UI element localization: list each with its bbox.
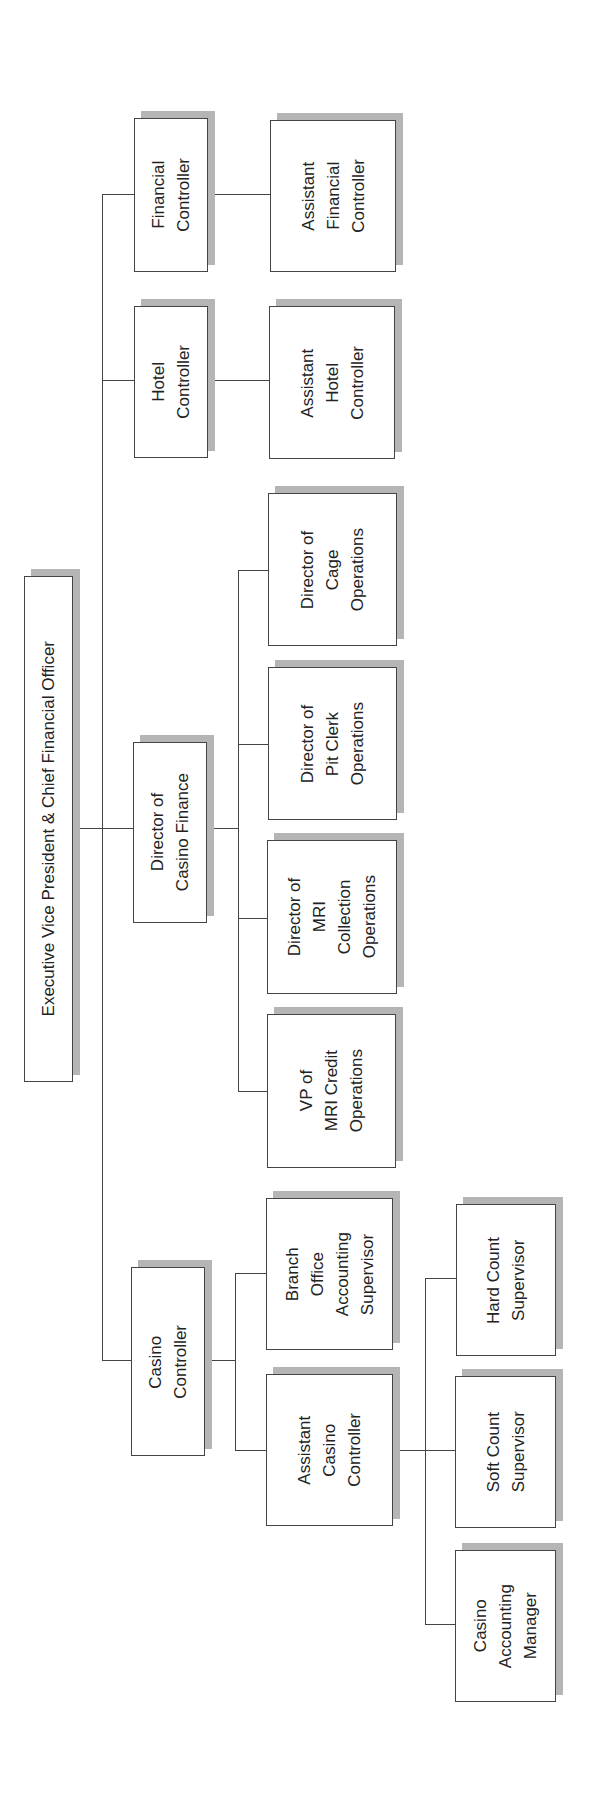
node-director-pit-clerk-operations: Director of Pit Clerk Operations [268, 667, 397, 820]
node-vp-mri-credit-operations: VP of MRI Credit Operations [267, 1014, 396, 1168]
node-director-casino-finance: Director of Casino Finance [133, 742, 207, 923]
connector-pit [238, 744, 268, 745]
connector-trunk [102, 194, 103, 1361]
connector-root [73, 828, 103, 829]
connector-cf-bus [238, 570, 239, 1092]
connector-hard [425, 1278, 456, 1279]
node-assistant-casino-controller: Assistant Casino Controller [266, 1374, 393, 1526]
connector-branch [235, 1273, 266, 1274]
node-label: Director of Cage Operations [295, 528, 370, 611]
node-label: Assistant Financial Controller [296, 159, 371, 233]
node-label: Casino Controller [143, 1325, 193, 1399]
connector-cage [238, 570, 268, 571]
connector-casino-finance [102, 828, 134, 829]
node-soft-count-supervisor: Soft Count Supervisor [455, 1376, 556, 1528]
connector-asst-casino [235, 1450, 266, 1451]
node-director-mri-collection-operations: Director of MRI Collection Operations [267, 840, 397, 994]
node-financial-controller: Financial Controller [134, 118, 208, 272]
node-label: Branch Office Accounting Supervisor [280, 1232, 380, 1316]
connector-financial [102, 194, 134, 195]
node-evp-cfo: Executive Vice President & Chief Financi… [24, 576, 73, 1082]
node-label: Casino Accounting Manager [468, 1584, 543, 1668]
node-casino-accounting-manager: Casino Accounting Manager [455, 1550, 556, 1702]
node-label: Director of Casino Finance [145, 773, 195, 891]
node-branch-office-accounting-supervisor: Branch Office Accounting Supervisor [266, 1198, 393, 1350]
node-assistant-hotel-controller: Assistant Hotel Controller [269, 306, 395, 459]
connector-soft [425, 1450, 456, 1451]
node-label: Assistant Hotel Controller [295, 346, 370, 420]
connector-cam [425, 1624, 456, 1625]
node-hard-count-supervisor: Hard Count Supervisor [456, 1204, 556, 1356]
connector-mri-collection [238, 918, 268, 919]
node-label: Executive Vice President & Chief Financi… [36, 641, 61, 1016]
node-label: Soft Count Supervisor [481, 1411, 531, 1492]
node-casino-controller: Casino Controller [131, 1267, 205, 1456]
node-label: Director of Pit Clerk Operations [295, 702, 370, 785]
connector-cc-bus [235, 1273, 236, 1450]
connector-financial-child [208, 194, 270, 195]
node-label: Financial Controller [146, 158, 196, 232]
node-label: Assistant Casino Controller [292, 1413, 367, 1487]
connector-hotel-child [208, 380, 270, 381]
connector-cc-out [205, 1360, 236, 1361]
node-label: Director of MRI Collection Operations [282, 875, 382, 958]
connector-vp-mri [238, 1091, 268, 1092]
node-label: Hotel Controller [146, 345, 196, 419]
connector-ac-out [393, 1450, 425, 1451]
node-label: VP of MRI Credit Operations [294, 1049, 369, 1132]
node-label: Hard Count Supervisor [481, 1237, 531, 1324]
connector-cf-out [207, 828, 238, 829]
node-director-cage-operations: Director of Cage Operations [268, 493, 397, 646]
node-assistant-financial-controller: Assistant Financial Controller [270, 120, 396, 272]
connector-hotel [102, 380, 134, 381]
node-hotel-controller: Hotel Controller [134, 306, 208, 458]
connector-ac-bus [425, 1278, 426, 1624]
connector-casino-controller [102, 1360, 132, 1361]
